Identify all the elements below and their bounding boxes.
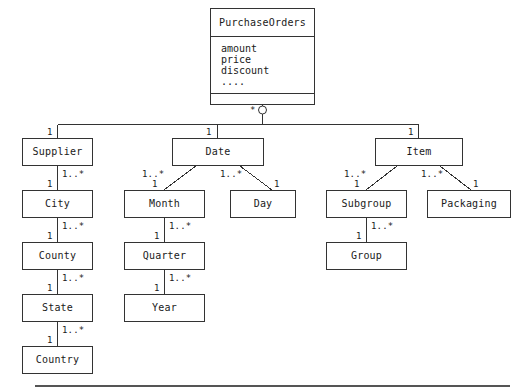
class-state[interactable]: State: [22, 294, 93, 322]
class-year[interactable]: Year: [124, 294, 205, 322]
multiplicity-root-many: *: [250, 106, 256, 115]
class-year-label: Year: [152, 303, 177, 313]
edge-item-to-subgroup: [366, 166, 397, 190]
class-purchaseorders[interactable]: PurchaseOrders amount price discount ...…: [210, 8, 315, 105]
class-city[interactable]: City: [22, 190, 93, 218]
class-purchaseorders-title: PurchaseOrders: [211, 9, 314, 37]
multiplicity-date-month-many: 1..*: [142, 170, 164, 179]
class-country-label: Country: [36, 355, 80, 365]
attribute-ellipsis: ....: [221, 76, 314, 87]
class-state-label: State: [42, 303, 73, 313]
edge-date-to-month: [164, 166, 196, 190]
multiplicity-month-one: 1: [152, 180, 158, 189]
class-date-label: Date: [206, 147, 231, 157]
class-day-label: Day: [254, 199, 273, 209]
attribute-price: price: [221, 54, 314, 65]
class-item[interactable]: Item: [375, 138, 463, 166]
class-month-label: Month: [149, 199, 180, 209]
attribute-discount: discount: [221, 65, 314, 76]
class-county-label: County: [39, 251, 76, 261]
multiplicity-county-state-many: 1..*: [62, 274, 84, 283]
class-packaging[interactable]: Packaging: [427, 190, 511, 218]
multiplicity-month-quarter-many: 1..*: [169, 222, 191, 231]
class-purchaseorders-attributes: amount price discount ....: [211, 37, 314, 94]
class-item-label: Item: [407, 147, 432, 157]
edge-item-to-packaging: [440, 166, 471, 190]
class-supplier[interactable]: Supplier: [22, 138, 93, 166]
edge-date-to-day: [240, 166, 272, 190]
multiplicity-country-one: 1: [47, 336, 53, 345]
multiplicity-date-one: 1: [206, 128, 212, 137]
multiplicity-state-one: 1: [47, 284, 53, 293]
multiplicity-quarter-year-many: 1..*: [169, 274, 191, 283]
multiplicity-item-one: 1: [408, 128, 414, 137]
multiplicity-item-subgroup-many: 1..*: [344, 170, 366, 179]
bottom-divider-rule: [35, 385, 510, 387]
class-subgroup-label: Subgroup: [342, 199, 392, 209]
class-date[interactable]: Date: [172, 138, 264, 166]
multiplicity-date-day-many: 1..*: [220, 170, 242, 179]
multiplicity-quarter-one: 1: [154, 232, 160, 241]
class-subgroup[interactable]: Subgroup: [326, 190, 407, 218]
class-group-label: Group: [351, 251, 382, 261]
class-county[interactable]: County: [22, 242, 93, 270]
multiplicity-county-one: 1: [47, 232, 53, 241]
multiplicity-state-country-many: 1..*: [62, 326, 84, 335]
multiplicity-city-one: 1: [47, 180, 53, 189]
class-quarter[interactable]: Quarter: [124, 242, 205, 270]
class-city-label: City: [45, 199, 70, 209]
class-purchaseorders-operations: [211, 94, 314, 108]
class-quarter-label: Quarter: [143, 251, 187, 261]
multiplicity-supplier-city-many: 1..*: [62, 170, 84, 179]
class-month[interactable]: Month: [124, 190, 205, 218]
multiplicity-day-one: 1: [274, 180, 280, 189]
multiplicity-supplier-one: 1: [47, 128, 53, 137]
multiplicity-subgroup-one: 1: [354, 180, 360, 189]
multiplicity-item-packaging-many: 1..*: [421, 170, 443, 179]
attribute-amount: amount: [221, 43, 314, 54]
class-group[interactable]: Group: [326, 242, 407, 270]
class-country[interactable]: Country: [22, 346, 93, 374]
multiplicity-city-county-many: 1..*: [62, 222, 84, 231]
class-packaging-label: Packaging: [441, 199, 497, 209]
multiplicity-packaging-one: 1: [473, 180, 479, 189]
multiplicity-subgroup-group-many: 1..*: [371, 222, 393, 231]
class-supplier-label: Supplier: [33, 147, 83, 157]
uml-class-diagram: PurchaseOrders amount price discount ...…: [0, 0, 521, 392]
multiplicity-group-one: 1: [356, 232, 362, 241]
class-day[interactable]: Day: [230, 190, 296, 218]
multiplicity-year-one: 1: [154, 284, 160, 293]
